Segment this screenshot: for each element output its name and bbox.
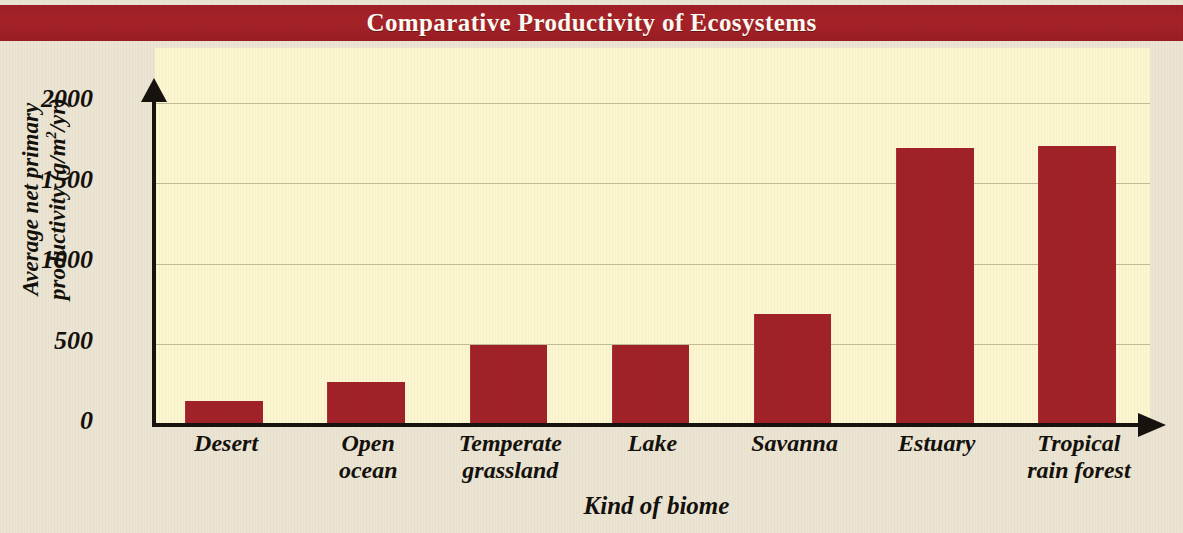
- x-axis-tick-label-line: Tropical: [1037, 430, 1120, 456]
- x-axis-line: [152, 423, 1140, 427]
- y-axis-arrowhead-icon: [141, 78, 167, 102]
- bar: [1038, 146, 1115, 425]
- y-axis-tick-label: 0: [80, 406, 93, 436]
- y-axis-title-superscript: 2: [44, 131, 59, 138]
- x-axis-tick-label-line: Open: [342, 430, 395, 456]
- y-axis-title-line1: Average net primary: [18, 103, 43, 296]
- chart-figure: Comparative Productivity of Ecosystems 0…: [0, 0, 1183, 533]
- x-axis-tick-label-line: Estuary: [898, 430, 975, 456]
- y-axis-title: Average net primary productivity (g/m2/y…: [17, 34, 71, 364]
- y-axis-title-line2-prefix: productivity (g/m: [45, 138, 70, 300]
- bar: [470, 345, 547, 426]
- bar: [754, 314, 831, 425]
- x-axis-title: Kind of biome: [0, 492, 1183, 520]
- chart-title: Comparative Productivity of Ecosystems: [366, 9, 816, 37]
- x-axis-tick-label-line: ocean: [339, 457, 398, 483]
- gridline: [155, 103, 1150, 104]
- bar: [612, 345, 689, 426]
- gridline: [155, 264, 1150, 265]
- bar: [896, 148, 973, 425]
- x-axis-tick-label-line: grassland: [462, 457, 558, 483]
- bar: [327, 382, 404, 425]
- x-axis-tick-label-line: Savanna: [751, 430, 838, 456]
- y-axis-line: [152, 96, 156, 427]
- x-axis-tick-label: Tropicalrain forest: [991, 430, 1167, 484]
- y-axis-title-line2-suffix: /yr): [45, 98, 70, 131]
- x-axis-tick-label-line: Temperate: [459, 430, 562, 456]
- gridline: [155, 183, 1150, 184]
- plot-area: [155, 48, 1150, 425]
- x-axis-tick-label-line: Desert: [194, 430, 258, 456]
- x-axis-tick-labels: DesertOpenoceanTemperategrasslandLakeSav…: [155, 430, 1150, 490]
- x-axis-tick-label-line: Lake: [628, 430, 677, 456]
- bar: [185, 401, 262, 425]
- x-axis-tick-label-line: rain forest: [1027, 457, 1130, 483]
- chart-title-banner: Comparative Productivity of Ecosystems: [0, 5, 1183, 41]
